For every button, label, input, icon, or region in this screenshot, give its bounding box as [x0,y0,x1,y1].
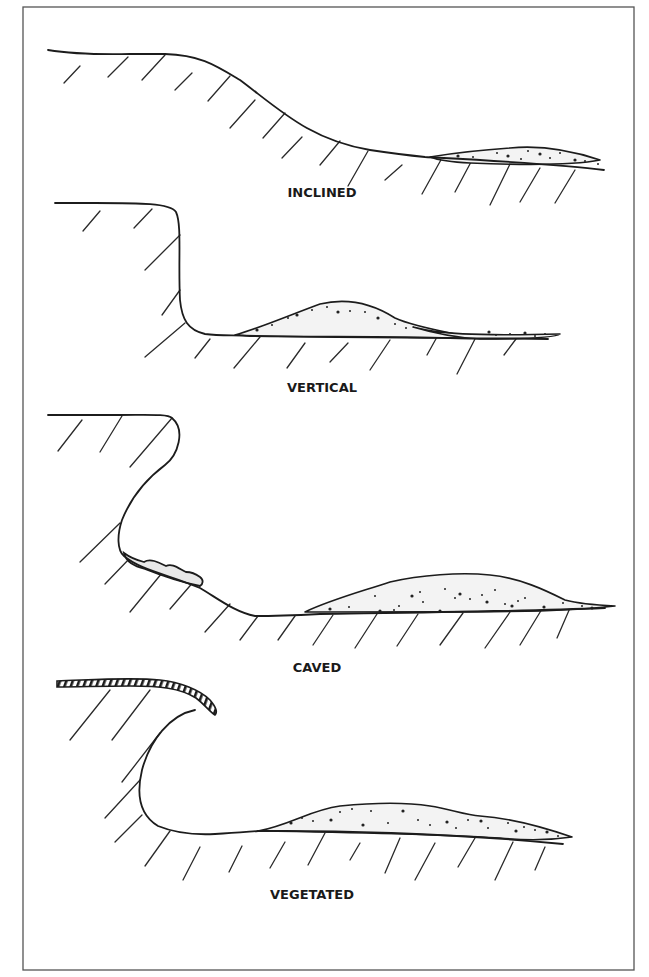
profile-caved [48,415,615,648]
profile-inclined [48,50,604,205]
profiles-layer [48,50,615,880]
label-vertical: VERTICAL [287,380,357,396]
vegetation-mat [57,679,216,715]
label-vegetated: VEGETATED [270,887,354,903]
profile-vertical [55,203,560,374]
diagram-canvas [0,0,649,977]
bank-hatching [70,690,545,880]
profile-vegetated [57,679,572,880]
bank-hatching [58,416,570,648]
bank-hatching [64,55,575,205]
bank-hatching [83,209,516,374]
bank-profiles-diagram: INCLINED VERTICAL CAVED VEGETATED [0,0,649,977]
label-caved: CAVED [293,660,341,676]
caved-bank-block [124,553,203,586]
label-inclined: INCLINED [288,185,357,201]
